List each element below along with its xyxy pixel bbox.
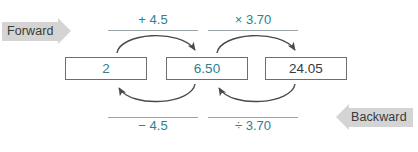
forward-banner-body: Forward: [2, 22, 58, 41]
value-box-3: 24.05: [265, 57, 347, 80]
forward-direction-banner: Forward: [2, 18, 71, 44]
value-box-2: 6.50: [166, 57, 248, 80]
value-box-1-value: 2: [102, 61, 110, 76]
forward-operation-1: + 4.5: [108, 12, 198, 31]
forward-arc-2-icon: [217, 36, 295, 53]
backward-direction-banner: Backward: [336, 104, 413, 130]
backward-arc-2-icon: [219, 84, 295, 102]
backward-banner-body: Backward: [349, 108, 413, 127]
value-box-3-value: 24.05: [289, 61, 323, 76]
backward-operation-1-label: − 4.5: [138, 118, 167, 133]
backward-banner-label: Backward: [351, 110, 407, 124]
forward-banner-label: Forward: [7, 24, 56, 38]
forward-operation-1-label: + 4.5: [138, 12, 167, 27]
forward-arrow-head-icon: [58, 18, 71, 44]
forward-arc-1-icon: [117, 36, 195, 53]
backward-operation-2-label: ÷ 3.70: [235, 118, 271, 133]
backward-arc-1-icon: [119, 84, 195, 102]
backward-operation-1: − 4.5: [108, 115, 198, 133]
forward-operation-2-rule: [208, 30, 298, 31]
value-box-2-value: 6.50: [194, 61, 220, 76]
backward-operation-2: ÷ 3.70: [208, 115, 298, 133]
diagram-canvas: Forward Backward + 4.5 × 3.70 − 4.5 ÷ 3.…: [0, 0, 418, 152]
backward-arrow-head-icon: [336, 104, 349, 130]
value-box-1: 2: [65, 57, 147, 80]
forward-operation-2-label: × 3.70: [235, 12, 272, 27]
forward-operation-1-rule: [108, 30, 198, 31]
forward-operation-2: × 3.70: [208, 12, 298, 31]
